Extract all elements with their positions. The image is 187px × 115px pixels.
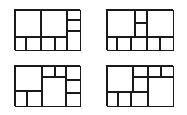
cell-d4: [161, 66, 174, 77]
cell-c2: [42, 66, 55, 77]
cell-c8: [15, 91, 27, 107]
cell-b5: [107, 37, 117, 51]
cell-a8: [41, 37, 55, 51]
cell-c1: [15, 66, 42, 91]
cell-b3: [135, 23, 147, 37]
dissection-outline-c: [14, 65, 80, 106]
figure-top-right: [106, 9, 173, 50]
cell-d5: [133, 77, 148, 92]
cell-c4: [66, 66, 81, 80]
cell-a7: [26, 37, 41, 51]
cell-b6: [117, 37, 131, 51]
dissection-outline-b: [106, 9, 173, 50]
cell-c5: [66, 80, 81, 93]
cell-b4: [147, 10, 174, 37]
cell-d7: [107, 92, 118, 107]
figure-top-left: [14, 9, 80, 50]
cell-a2: [41, 10, 67, 37]
cell-c3: [55, 66, 66, 77]
cell-c6: [66, 93, 81, 107]
cell-d2: [133, 66, 148, 77]
figure-sheet: [0, 0, 187, 115]
dissection-outline-d: [106, 65, 173, 106]
cell-a9: [55, 37, 67, 51]
cell-b7: [131, 37, 147, 51]
cell-d6: [148, 77, 174, 107]
cell-b2: [135, 10, 147, 23]
figure-bottom-right: [106, 65, 173, 106]
cell-d9: [131, 92, 148, 107]
dissection-outline-a: [14, 9, 80, 50]
cell-b1: [107, 10, 135, 37]
cell-c9: [27, 91, 42, 107]
cell-a3: [67, 10, 81, 20]
cell-d8: [118, 92, 131, 107]
cell-a5: [67, 31, 81, 51]
cell-a6: [15, 37, 26, 51]
cell-a4: [67, 20, 81, 31]
cell-b8: [147, 37, 160, 51]
cell-b9: [160, 37, 174, 51]
cell-d3: [148, 66, 161, 77]
cell-c7: [42, 77, 66, 107]
cell-a1: [15, 10, 41, 37]
cell-d1: [107, 66, 133, 92]
figure-bottom-left: [14, 65, 80, 106]
